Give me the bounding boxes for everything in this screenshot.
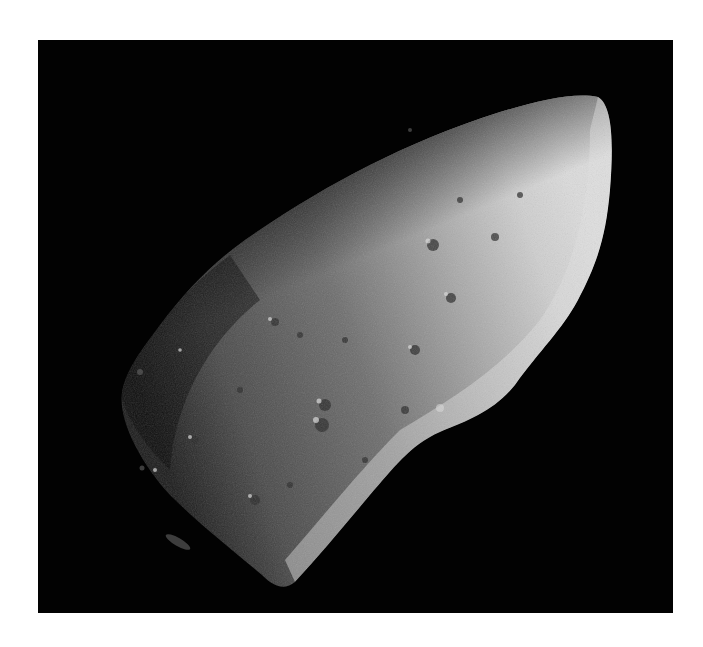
asteroid-body [38, 40, 673, 613]
asteroid-photo [38, 40, 673, 613]
photo-frame: Cratered irregular asteroid photographed… [38, 40, 673, 613]
